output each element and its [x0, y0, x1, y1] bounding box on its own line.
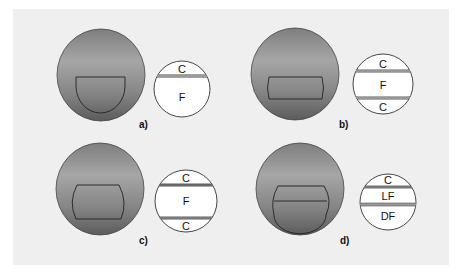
- schematic-d: C LF DF: [355, 174, 425, 230]
- panel-d: C LF DF d): [256, 143, 425, 246]
- schematic-c: C F C: [150, 170, 225, 232]
- region-label: LF: [382, 190, 395, 202]
- schematic-b: C F C: [350, 54, 420, 114]
- panel-caption: d): [340, 235, 349, 246]
- region-label: C: [384, 174, 392, 186]
- panel-caption: a): [139, 119, 148, 130]
- panel-b: C F C b): [251, 28, 420, 130]
- sphere-a: [57, 29, 145, 121]
- schematic-a: C F: [150, 61, 220, 117]
- panel-caption: b): [339, 119, 348, 130]
- region-label: C: [379, 58, 387, 70]
- region-label: F: [179, 91, 186, 103]
- panel-caption: c): [139, 235, 148, 246]
- figure-diagram: C F a) C F C b): [0, 0, 457, 273]
- region-label: C: [379, 101, 387, 113]
- region-label: F: [380, 79, 387, 91]
- panel-c: C F C c): [56, 143, 225, 246]
- sphere-c: [56, 143, 144, 235]
- sphere-d: [256, 143, 344, 235]
- region-label: C: [182, 172, 190, 184]
- panel-a: C F a): [57, 29, 220, 130]
- region-label: DF: [381, 210, 396, 222]
- region-label: F: [183, 195, 190, 207]
- region-label: C: [182, 220, 190, 232]
- sphere-b: [251, 28, 339, 120]
- region-label: C: [178, 63, 186, 75]
